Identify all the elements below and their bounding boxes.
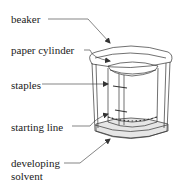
beaker-diagram bbox=[0, 0, 186, 186]
paper-cylinder bbox=[108, 62, 158, 127]
leader-lines bbox=[42, 19, 110, 163]
staples bbox=[113, 86, 127, 112]
